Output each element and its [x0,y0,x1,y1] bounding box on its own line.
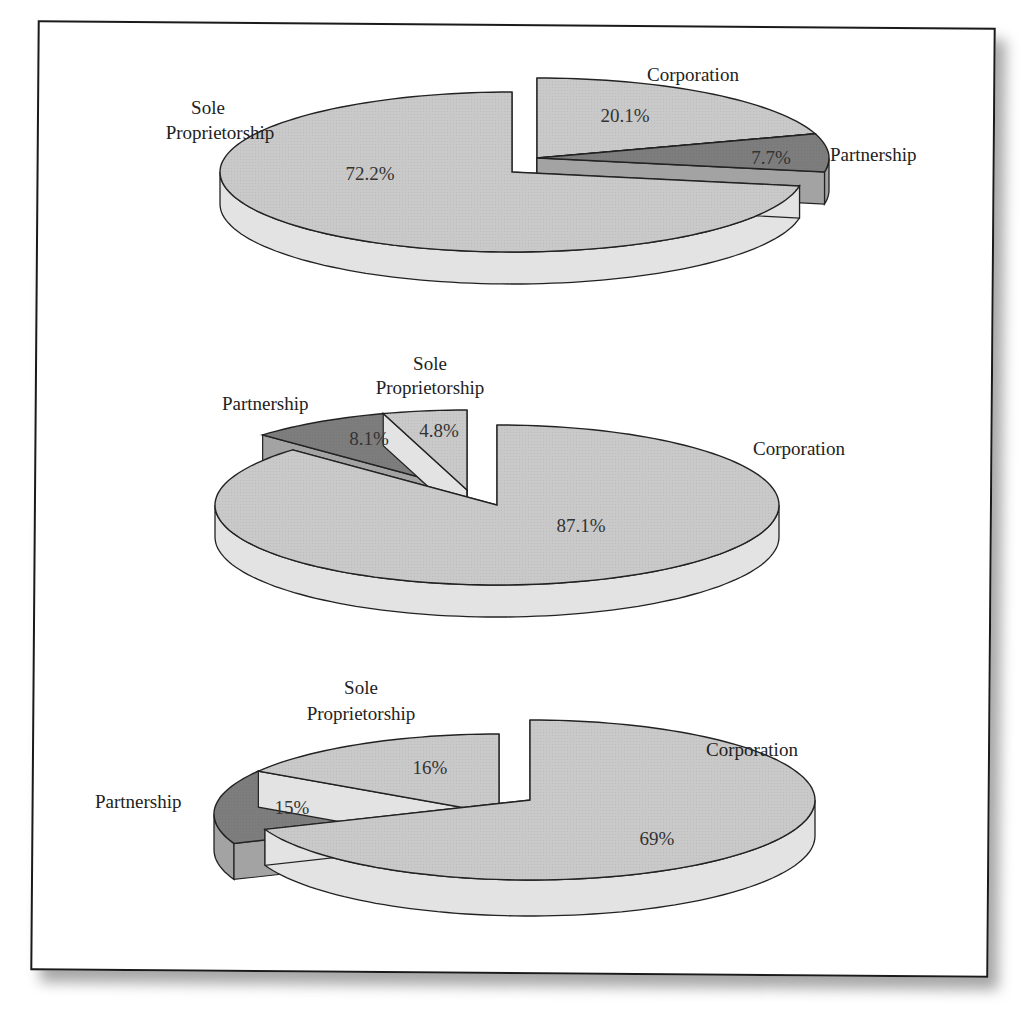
chart3-part-pct: 15% [275,797,310,818]
chart3-corp-pct: 69% [640,828,675,849]
chart2-partnership-label: Partnership [222,393,309,414]
chart2-corporation-label: Corporation [753,438,845,459]
chart1-sole-label-line1: Sole [191,97,225,118]
chart1-partnership-label: Partnership [830,144,917,165]
chart3-sole-pct: 16% [413,757,448,778]
chart1-sole-pct: 72.2% [345,163,394,184]
chart1-sole-label-line2: Proprietorship [166,122,275,143]
pie-chart-1 [220,78,829,284]
chart3-partnership-label: Partnership [95,791,182,812]
pie-charts-canvas: SoleProprietorshipCorporationPartnership… [0,0,1021,1009]
chart2-sole-pct: 4.8% [419,420,459,441]
chart1-part-pct: 7.7% [751,147,791,168]
chart2-slice-corporation [215,425,779,617]
chart3-sole-label-line2: Proprietorship [307,703,416,724]
pie-chart-2 [215,410,779,617]
chart3-corporation-label: Corporation [706,739,798,760]
chart1-corp-pct: 20.1% [600,105,649,126]
chart2-sole-label-line1: Sole [413,353,447,374]
chart2-part-pct: 8.1% [349,428,389,449]
chart2-corp-pct: 87.1% [556,515,605,536]
chart3-sole-label-line1: Sole [344,677,378,698]
chart2-sole-label-line2: Proprietorship [376,377,485,398]
chart1-corporation-label: Corporation [647,64,739,85]
